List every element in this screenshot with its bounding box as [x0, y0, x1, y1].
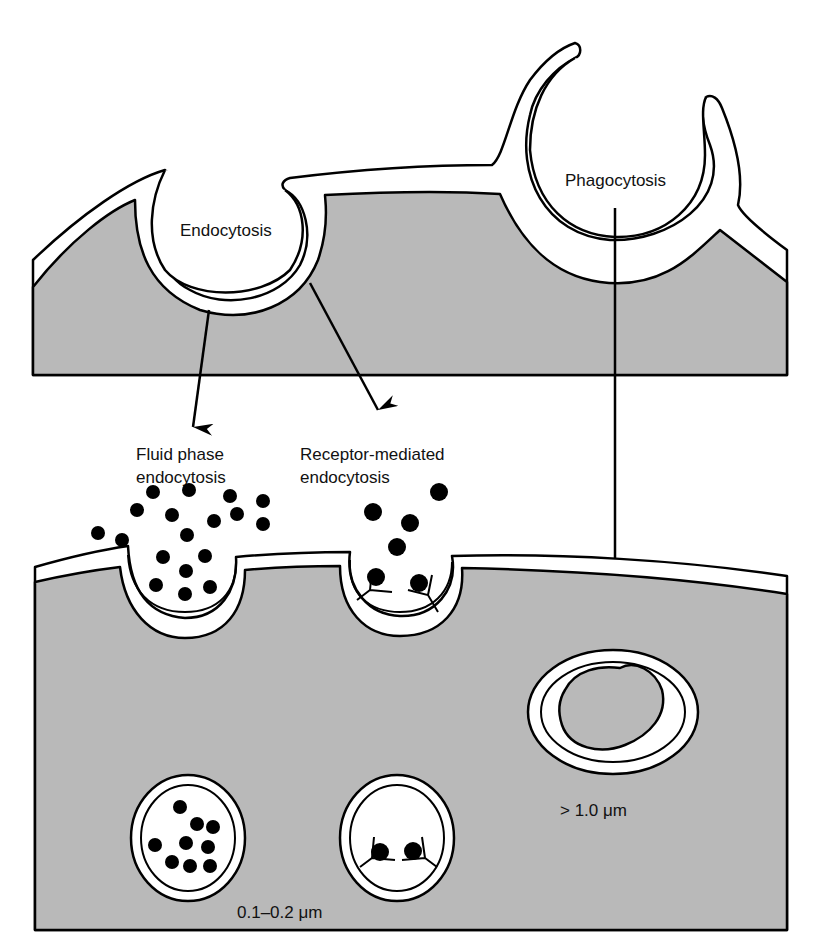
particle-dot — [230, 507, 244, 521]
particle-dot — [203, 859, 217, 873]
particle-dot — [223, 489, 237, 503]
particle-dot — [165, 855, 179, 869]
particle-dot — [146, 485, 160, 499]
particle-dot — [173, 800, 187, 814]
phagosome-size-label: > 1.0 μm — [560, 801, 627, 820]
particle-dot — [410, 574, 428, 592]
particle-dot — [207, 514, 221, 528]
particle-dot — [364, 503, 382, 521]
particle-dot — [256, 494, 270, 508]
particle-dot — [201, 840, 215, 854]
small-vesicle-size-label: 0.1–0.2 μm — [237, 903, 322, 922]
particle-dot — [156, 550, 170, 564]
particle-dot — [256, 517, 270, 531]
particle-dot — [388, 538, 406, 556]
fluid-phase-label-line2: endocytosis — [136, 468, 226, 487]
particle-dot — [148, 838, 162, 852]
fluid-phase-label-line1: Fluid phase — [136, 445, 224, 464]
particle-dot — [203, 580, 217, 594]
endocytosis-label: Endocytosis — [180, 221, 272, 240]
particle-dot — [165, 508, 179, 522]
particle-dot — [178, 587, 192, 601]
receptor-mediated-label-line2: endocytosis — [300, 468, 390, 487]
particle-dot — [130, 503, 144, 517]
particle-dot — [179, 836, 193, 850]
particle-dot — [179, 564, 193, 578]
phagocytosis-cup — [530, 58, 706, 237]
particle-dot — [183, 859, 197, 873]
particle-dot — [430, 483, 448, 501]
particle-dot — [182, 483, 196, 497]
particle-dot — [198, 549, 212, 563]
particle-dot — [367, 568, 385, 586]
top-cell-panel — [33, 43, 787, 375]
particle-dot — [190, 817, 204, 831]
particle-dot — [149, 578, 163, 592]
particle-dot — [91, 526, 105, 540]
endocytosis-diagram: Endocytosis Phagocytosis Fluid phase end… — [0, 0, 821, 951]
phagocytosis-label: Phagocytosis — [565, 171, 666, 190]
receptor-vesicle — [340, 775, 454, 901]
phagosome — [528, 650, 698, 774]
particle-dot — [401, 514, 419, 532]
particle-dot — [115, 533, 129, 547]
particle-dot — [206, 820, 220, 834]
receptor-mediated-label-line1: Receptor-mediated — [300, 445, 445, 464]
particle-dot — [371, 843, 389, 861]
particle-dot — [404, 842, 422, 860]
particle-dot — [180, 528, 194, 542]
